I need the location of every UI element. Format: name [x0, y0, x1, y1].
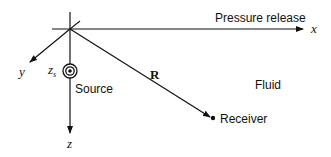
source-label: Source	[75, 82, 113, 96]
range-vector	[70, 29, 210, 117]
z-axis-label: z	[66, 136, 72, 151]
y-axis-line	[30, 29, 70, 62]
x-axis-label: x	[310, 21, 317, 36]
surface-label: Pressure release	[215, 11, 306, 25]
diagram-canvas: Pressure release x y z zs Source R Fluid…	[0, 0, 331, 157]
receiver-label: Receiver	[220, 112, 267, 126]
origin-diagonal-stub	[70, 21, 80, 29]
source-icon	[63, 64, 77, 78]
receiver-icon	[211, 116, 215, 120]
y-axis-label: y	[17, 64, 25, 79]
source-depth-label: zs	[47, 62, 56, 79]
medium-label: Fluid	[255, 78, 281, 92]
range-label: R	[150, 67, 160, 82]
